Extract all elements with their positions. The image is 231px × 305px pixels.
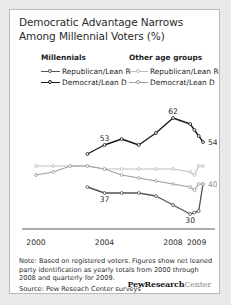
x-axis-tick-label: 2000 (26, 238, 45, 247)
series-point (86, 186, 89, 189)
chart-card: Democratic Advantage Narrows Among Mille… (9, 9, 220, 294)
legend-group-millennials: Millennials Republican/Lean R Democrat/L… (41, 53, 131, 88)
series-point (103, 144, 106, 147)
series-point (197, 165, 200, 168)
series-point (197, 183, 200, 186)
legend-item-label: Republican/Lean R (62, 67, 131, 76)
series-point (193, 189, 196, 192)
legend-group-heading: Other age groups (129, 53, 219, 62)
data-point-label: 62 (168, 107, 178, 116)
data-point-label: 37 (100, 195, 110, 204)
series-point (172, 168, 175, 171)
data-point-label: 40 (208, 180, 217, 189)
series-point (189, 171, 192, 174)
legend-item-label: Democrat/Lean D (150, 78, 215, 87)
series-point (137, 144, 140, 147)
line-marker-icon (41, 79, 60, 86)
line-chart-plot: 536254373040 (14, 96, 217, 244)
series-point (86, 165, 89, 168)
series-point (137, 192, 140, 195)
series-point (154, 168, 157, 171)
series-point (193, 129, 196, 132)
series-point (172, 204, 175, 207)
x-axis-tick-label: 2008 (163, 238, 182, 247)
x-axis-tick-label: 2004 (95, 238, 114, 247)
x-axis-labels: 2000200420082009 (19, 238, 213, 252)
series-point (137, 168, 140, 171)
legend-item-label: Democrat/Lean D (62, 78, 127, 87)
series-point (189, 186, 192, 189)
data-point-label: 53 (100, 134, 110, 143)
series-point (120, 168, 123, 171)
legend-item-millennials-democrat: Democrat/Lean D (41, 77, 131, 88)
logo-light-text: Center (184, 280, 211, 289)
legend-item-other-republican: Republican/Lean R (129, 66, 219, 77)
series-point (35, 174, 38, 177)
series-point (52, 171, 55, 174)
legend-item-label: Republican/Lean R (150, 67, 219, 76)
series-point (172, 117, 175, 120)
series-point (137, 177, 140, 180)
series-point (197, 210, 200, 213)
series-point (202, 183, 205, 186)
line-marker-icon (129, 68, 148, 75)
series-point (154, 195, 157, 198)
legend-item-other-democrat: Democrat/Lean D (129, 77, 219, 88)
pew-research-center-logo: PewResearchCenter (127, 279, 211, 289)
series-point (35, 165, 38, 168)
series-point (120, 138, 123, 141)
series-point (69, 165, 72, 168)
legend-group-heading: Millennials (41, 53, 131, 62)
series-point (202, 141, 205, 144)
series-point (154, 180, 157, 183)
series-point (120, 174, 123, 177)
series-point (193, 211, 196, 214)
chart-legend: Millennials Republican/Lean R Democrat/L… (19, 53, 213, 95)
series-point (193, 174, 196, 177)
legend-item-millennials-republican: Republican/Lean R (41, 66, 131, 77)
series-point (120, 192, 123, 195)
data-point-label: 54 (208, 138, 217, 147)
line-marker-icon (129, 79, 148, 86)
logo-bold-text: PewResearch (127, 279, 184, 289)
chart-canvas: 536254373040 (14, 96, 217, 244)
series-point (86, 153, 89, 156)
series-point (189, 123, 192, 126)
page-title: Democratic Advantage Narrows Among Mille… (19, 16, 213, 43)
series-point (103, 168, 106, 171)
line-marker-icon (41, 68, 60, 75)
series-point (154, 132, 157, 135)
x-axis-tick-label: 2009 (187, 238, 206, 247)
series-point (172, 183, 175, 186)
series-point (202, 165, 205, 168)
data-point-label: 30 (185, 216, 195, 225)
series-point (197, 135, 200, 138)
legend-group-other-age-groups: Other age groups Republican/Lean R Democ… (129, 53, 219, 88)
series-point (52, 165, 55, 168)
